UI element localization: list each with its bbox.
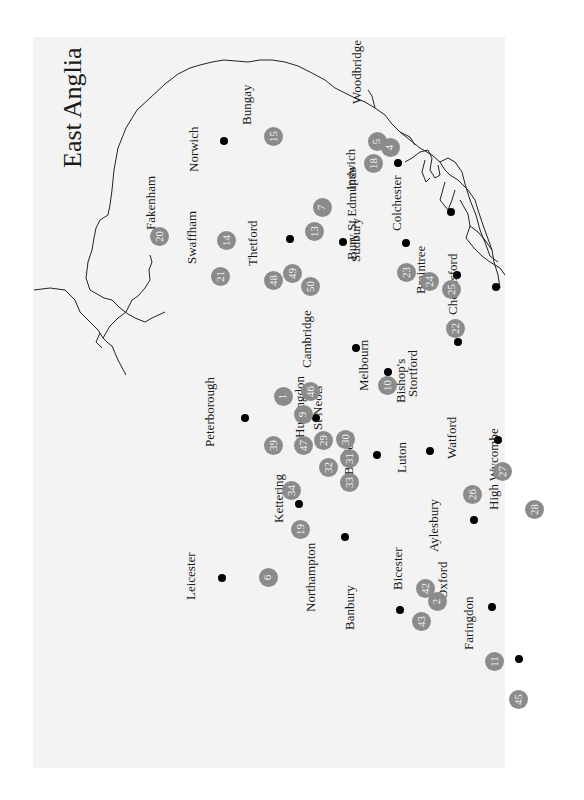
site-marker-number: 22 (450, 323, 461, 334)
town-dot-colchester (447, 208, 455, 216)
site-marker-10[interactable]: 10 (378, 376, 397, 395)
town-label-fakenham: Fakenham (144, 176, 158, 230)
town-label-colchester: Colchester (390, 175, 404, 231)
site-marker-21[interactable]: 21 (211, 267, 230, 286)
site-marker-45[interactable]: 45 (509, 690, 528, 709)
site-marker-50[interactable]: 50 (301, 277, 320, 296)
site-marker-34[interactable]: 34 (282, 481, 301, 500)
site-marker-33[interactable]: 33 (340, 473, 359, 492)
town-label-kettering: Kettering (272, 474, 286, 523)
site-marker-6[interactable]: 6 (259, 568, 278, 587)
site-marker-number: 33 (344, 477, 355, 488)
site-marker-1[interactable]: 1 (274, 387, 293, 406)
town-dot-leicester (218, 574, 226, 582)
site-marker-number: 2 (432, 598, 443, 604)
town-dot-stortford (454, 338, 462, 346)
town-label-thetford: Thetford (246, 221, 260, 266)
town-label-melbourn: Melbourn (357, 340, 371, 391)
town-dot-chelmsford (492, 283, 500, 291)
site-marker-11[interactable]: 11 (485, 652, 504, 671)
site-marker-20[interactable]: 20 (150, 227, 169, 246)
town-dot-aylesbury (470, 516, 478, 524)
site-marker-number: 50 (305, 281, 316, 292)
town-dot-ipswich (394, 159, 402, 167)
site-marker-number: 25 (446, 284, 457, 295)
town-dot-oxford (488, 603, 496, 611)
town-label-swaffham: Swaffham (185, 211, 199, 264)
site-marker-number: 30 (340, 434, 351, 445)
site-marker-18[interactable]: 18 (364, 154, 383, 173)
site-marker-19[interactable]: 19 (291, 520, 310, 539)
town-label-cambridge: Cambridge (300, 310, 314, 368)
site-marker-29[interactable]: 29 (314, 431, 333, 450)
site-marker-30[interactable]: 30 (336, 430, 355, 449)
town-dot-sudbury (402, 239, 410, 247)
site-marker-number: 21 (215, 271, 226, 282)
site-marker-number: 11 (489, 656, 500, 667)
site-marker-number: 34 (286, 485, 297, 496)
site-marker-number: 39 (268, 440, 279, 451)
site-marker-number: 7 (317, 204, 328, 210)
town-dot-faringdon (515, 655, 523, 663)
site-marker-number: 47 (298, 440, 309, 451)
site-marker-28[interactable]: 28 (525, 500, 544, 519)
site-marker-number: 14 (221, 235, 232, 246)
site-marker-number: 48 (268, 275, 279, 286)
site-marker-14[interactable]: 14 (217, 231, 236, 250)
site-marker-13[interactable]: 13 (305, 222, 324, 241)
site-marker-39[interactable]: 39 (264, 436, 283, 455)
site-marker-24[interactable]: 24 (420, 272, 439, 291)
town-label-banbury: Banbury (343, 585, 357, 630)
site-marker-48[interactable]: 48 (264, 271, 283, 290)
site-marker-25[interactable]: 25 (442, 280, 461, 299)
town-dot-bedford (373, 451, 381, 459)
town-label-sudbury: Sudbury (349, 218, 363, 262)
site-marker-number: 46 (305, 386, 316, 397)
town-label-woodbridge: Woodbridge (350, 40, 364, 104)
site-marker-31[interactable]: 31 (340, 449, 359, 468)
site-marker-number: 24 (424, 276, 435, 287)
town-label-stortford: Stortford (406, 350, 420, 397)
site-marker-number: 29 (318, 435, 329, 446)
site-marker-number: 18 (368, 158, 379, 169)
site-marker-42[interactable]: 42 (416, 579, 435, 598)
town-label-leicester: Leicester (184, 552, 198, 600)
town-label-northampton: Northampton (304, 543, 318, 612)
site-marker-number: 26 (467, 489, 478, 500)
town-label-bungay: Bungay (240, 85, 254, 125)
site-marker-number: 42 (420, 583, 431, 594)
site-marker-number: 9 (298, 411, 309, 417)
town-label-aylesbury: Aylesbury (427, 499, 441, 552)
town-dot-banbury (396, 606, 404, 614)
town-dot-peterborough (241, 414, 249, 422)
site-marker-26[interactable]: 26 (463, 485, 482, 504)
site-marker-15[interactable]: 15 (264, 127, 283, 146)
town-label-bicester: Bicester (391, 547, 405, 590)
site-marker-49[interactable]: 49 (283, 264, 302, 283)
site-marker-27[interactable]: 27 (493, 462, 512, 481)
site-marker-number: 10 (382, 380, 393, 391)
site-marker-46[interactable]: 46 (301, 382, 320, 401)
site-marker-47[interactable]: 47 (294, 436, 313, 455)
site-marker-5[interactable]: 5 (368, 132, 387, 151)
site-marker-22[interactable]: 22 (446, 319, 465, 338)
map-title: East Anglia (58, 47, 88, 168)
site-marker-number: 15 (268, 131, 279, 142)
site-marker-number: 45 (513, 694, 524, 705)
site-marker-number: 13 (309, 226, 320, 237)
site-marker-32[interactable]: 32 (319, 458, 338, 477)
town-dot-luton (426, 447, 434, 455)
town-label-faringdon: Faringdon (462, 597, 476, 650)
town-dot-melbourn (384, 368, 392, 376)
site-marker-number: 27 (497, 466, 508, 477)
site-marker-number: 32 (323, 462, 334, 473)
site-marker-7[interactable]: 7 (313, 198, 332, 217)
site-marker-number: 20 (154, 231, 165, 242)
site-marker-23[interactable]: 23 (397, 263, 416, 282)
site-marker-9[interactable]: 9 (294, 405, 313, 424)
site-marker-number: 49 (287, 268, 298, 279)
town-label-luton: Luton (395, 442, 409, 473)
town-label-norwich: Norwich (187, 127, 201, 173)
site-marker-43[interactable]: 43 (412, 612, 431, 631)
site-marker-number: 1 (278, 393, 289, 399)
